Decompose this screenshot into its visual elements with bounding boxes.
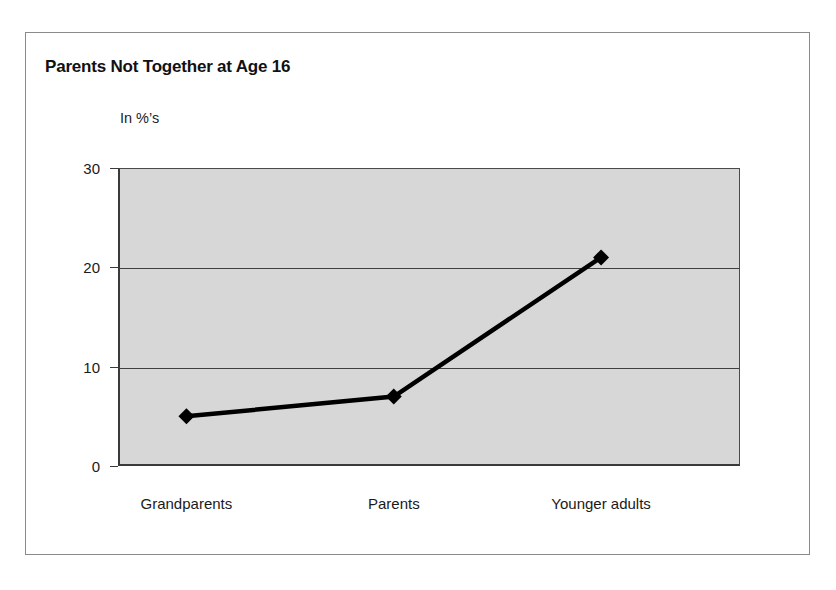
x-tick-label-grandparents: Grandparents xyxy=(141,495,233,512)
y-tick-mark-30 xyxy=(110,168,118,169)
gridline-10 xyxy=(120,368,739,369)
y-tick-label-30: 30 xyxy=(68,160,100,177)
y-tick-label-10: 10 xyxy=(68,358,100,375)
x-tick-label-parents: Parents xyxy=(368,495,420,512)
plot-area xyxy=(118,168,740,466)
gridline-20 xyxy=(120,268,739,269)
y-tick-label-20: 20 xyxy=(68,259,100,276)
y-axis-unit-label: In %’s xyxy=(120,110,159,126)
chart-title: Parents Not Together at Age 16 xyxy=(45,57,290,77)
y-tick-label-0: 0 xyxy=(68,458,100,475)
x-tick-label-younger-adults: Younger adults xyxy=(551,495,651,512)
y-tick-mark-10 xyxy=(110,367,118,368)
y-tick-mark-0 xyxy=(110,466,118,467)
y-tick-mark-20 xyxy=(110,267,118,268)
chart-figure: Parents Not Together at Age 16 In %’s 30… xyxy=(0,0,836,590)
